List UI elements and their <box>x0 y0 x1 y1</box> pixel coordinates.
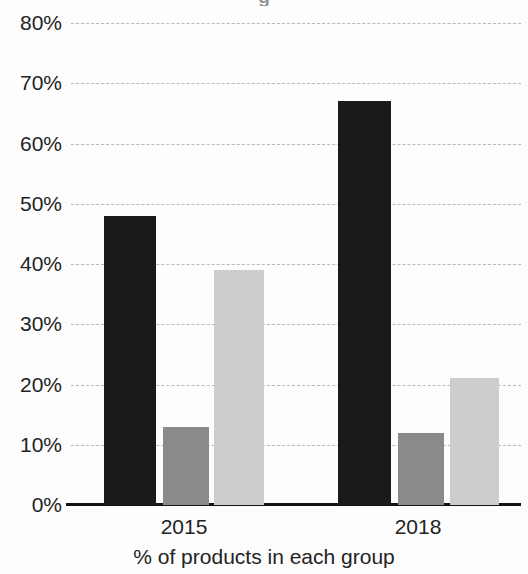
bar <box>338 101 391 505</box>
x-axis-tick-label: 2015 <box>134 515 234 539</box>
bar <box>450 378 499 505</box>
x-axis-title: % of products in each group <box>0 545 528 569</box>
bar <box>214 270 264 505</box>
bar <box>104 216 156 505</box>
bar <box>398 433 444 505</box>
bars-layer <box>0 0 528 505</box>
bar <box>163 427 209 505</box>
bar-chart: g 80%70%60%50%40%30%20%10%0% 20152018 % … <box>0 0 528 574</box>
x-axis-tick-label: 2018 <box>368 515 468 539</box>
